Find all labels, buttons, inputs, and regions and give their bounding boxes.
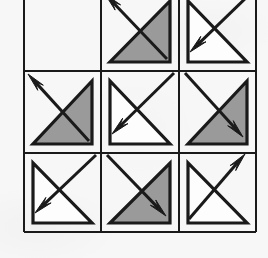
cell-r3c3[interactable] <box>179 153 256 232</box>
cell-r3c2[interactable] <box>101 153 179 232</box>
cell-r1c2[interactable] <box>101 0 179 71</box>
cell-r2c3[interactable] <box>179 71 256 153</box>
matrix-puzzle-figure <box>0 0 268 258</box>
cell-r1c1[interactable] <box>24 0 101 71</box>
cell-r2c1[interactable] <box>24 71 101 153</box>
cell-r1c1-hit-area[interactable] <box>24 0 101 71</box>
matrix-grid <box>0 0 268 258</box>
cell-r3c1[interactable] <box>24 153 101 232</box>
cell-r1c3[interactable] <box>179 0 256 71</box>
cell-r2c2[interactable] <box>101 71 179 153</box>
